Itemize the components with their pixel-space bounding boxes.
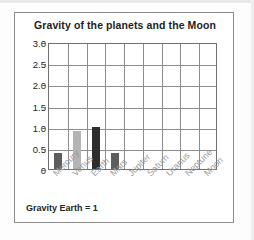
figure-frame: Gravity of the planets and the Moon 00.5… [14, 12, 234, 223]
footer-note: Gravity Earth = 1 [26, 203, 98, 213]
chart-title: Gravity of the planets and the Moon [15, 19, 235, 31]
y-axis: 00.51.01.52.02.53.0 [15, 43, 46, 170]
y-tick-mark [42, 85, 46, 86]
y-tick-mark [42, 128, 46, 129]
scan-edge-top [0, 0, 254, 3]
y-tick-mark [42, 170, 46, 171]
scan-edge-right [251, 0, 254, 240]
y-tick-mark [42, 107, 46, 108]
y-tick-mark [42, 43, 46, 44]
y-tick-mark [42, 149, 46, 150]
y-tick-mark [42, 64, 46, 65]
chart-page: Gravity of the planets and the Moon 00.5… [0, 0, 254, 240]
